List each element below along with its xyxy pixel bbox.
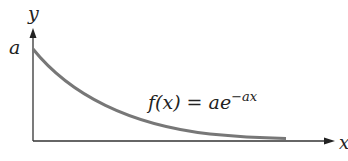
exponential-decay-diagram: y x a f(x) = ae−ax [0, 0, 348, 161]
function-exponent: −ax [231, 89, 258, 104]
y-axis-arrow-icon [30, 28, 37, 38]
function-lhs: f(x) = ae [146, 91, 231, 113]
x-axis-arrow-icon [324, 138, 335, 145]
function-label: f(x) = ae−ax [146, 89, 258, 113]
intercept-label: a [9, 36, 20, 58]
y-axis-label: y [27, 2, 39, 24]
x-axis-label: x [339, 132, 348, 153]
